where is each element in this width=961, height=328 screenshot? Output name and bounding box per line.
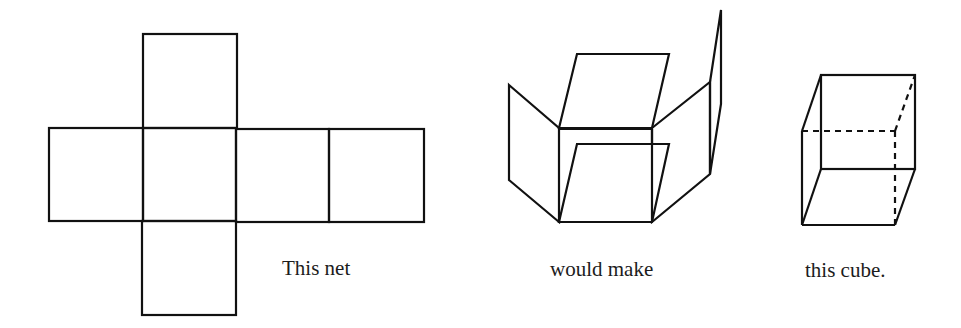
cube-back-face xyxy=(821,75,915,169)
net-face-left xyxy=(49,128,143,221)
net-face-center xyxy=(143,128,236,221)
caption-folding: would make xyxy=(550,259,653,280)
cube-hidden-edges xyxy=(802,75,915,225)
cube-edge xyxy=(802,169,821,225)
net-face-far-right xyxy=(329,129,424,222)
folded-right-flap xyxy=(652,82,710,222)
partially-folded-net xyxy=(509,10,721,222)
caption-cube: this cube. xyxy=(805,260,885,281)
net-face-bottom xyxy=(142,221,236,315)
folded-far-right-flap xyxy=(710,10,721,174)
caption-net: This net xyxy=(282,258,350,279)
net-face-top xyxy=(143,34,237,128)
net-face-right xyxy=(236,129,329,222)
cube-net xyxy=(49,34,424,315)
cube-edge xyxy=(802,75,821,131)
folded-back-flap xyxy=(559,54,669,128)
cube-edge xyxy=(895,169,915,225)
cube xyxy=(802,75,915,225)
folded-left-flap xyxy=(509,85,559,222)
